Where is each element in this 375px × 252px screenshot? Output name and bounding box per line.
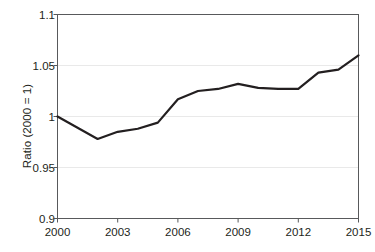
gridlines: [58, 66, 359, 168]
plot-area: [0, 0, 375, 252]
chart-figure: Ratio (2000 = 1) 0.90.9511.051.1 2000200…: [0, 0, 375, 252]
data-series-line: [58, 55, 359, 139]
axis-ticks: [54, 15, 359, 223]
